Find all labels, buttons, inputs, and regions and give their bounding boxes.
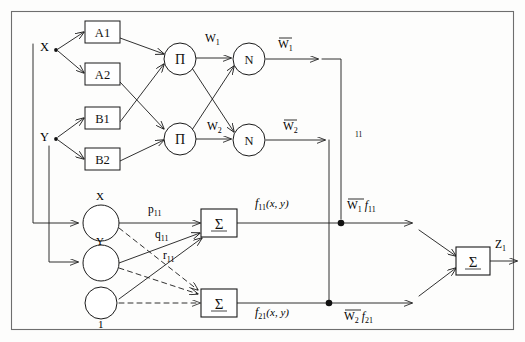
membership-label-a2: A2 [95, 68, 110, 82]
rule-weight-label-1: W1 [205, 32, 220, 47]
rule-weight-2-sub: 2 [218, 126, 222, 135]
wo2-weight-sub: 2 [355, 316, 359, 325]
norm-node-n-1-label: N [244, 53, 253, 67]
consequent-param-label-r: r11 [163, 249, 175, 264]
wo1-func-sub: 11 [368, 205, 376, 214]
consequent-circle-one[interactable] [85, 287, 117, 319]
edge-y-to-b1 [58, 118, 84, 137]
param-q-sub: 11 [161, 234, 169, 243]
weighted-output-label-1: W1f11 [347, 199, 376, 214]
sum-box-2-label: Σ [215, 296, 224, 312]
weighted-output-label-2: W2f21 [344, 310, 373, 325]
wo1-weight-sub: 1 [358, 205, 362, 214]
membership-label-b1: B1 [95, 112, 110, 126]
rule-weight-1-base: W [205, 32, 216, 44]
membership-label-a1: A1 [95, 26, 110, 40]
rule-node-pi-1-label: Π [175, 52, 185, 67]
wo1-weight: W [347, 199, 358, 211]
edge-b2-to-pi2 [120, 140, 164, 161]
sum-box-1-label: Σ [215, 216, 224, 232]
anfis-diagram-canvas: A1 A2 B1 B2 Π Π N N Σ Σ Σ [0, 0, 525, 342]
route-wbar1-down [322, 59, 341, 219]
edge-a2-to-pi2 [120, 82, 164, 129]
output-label-z1: Z1 [495, 238, 506, 253]
input-label-x: X [40, 40, 49, 55]
edge-to-final-sum-lower [419, 268, 456, 296]
junction-dot-wbar2 [326, 300, 333, 307]
f21-args: (x, y) [266, 306, 289, 318]
branch-label: 11 [355, 130, 362, 139]
input-dot-x [54, 48, 58, 52]
input-dot-y [54, 137, 58, 141]
consequent-input-label-one: 1 [98, 318, 104, 330]
normalized-weight-label-2: W2 [283, 120, 298, 135]
consequent-input-label-y: Y [96, 235, 104, 247]
norm-node-n-2-label: N [244, 134, 253, 148]
norm-weight-1-base: W [278, 38, 289, 50]
normalized-weight-label-1: W1 [278, 38, 293, 53]
consequent-param-label-q: q11 [155, 228, 168, 243]
rule-weight-label-2: W2 [207, 120, 222, 135]
f11-args: (x, y) [266, 197, 289, 209]
edge-y-to-b2 [58, 140, 84, 159]
param-p-sub: 11 [154, 209, 162, 218]
consequent-param-label-p: p11 [148, 203, 161, 218]
function-label-f21: f21(x, y) [255, 305, 289, 321]
wo2-weight: W [344, 310, 355, 322]
edge-x-to-a1 [58, 32, 84, 49]
param-r-sub: 11 [167, 255, 175, 264]
diagram-svg: A1 A2 B1 B2 Π Π N N Σ Σ Σ [0, 0, 525, 342]
route-y-down-to-circle [49, 146, 78, 262]
rule-node-pi-2-label: Π [175, 132, 185, 147]
norm-weight-2-base: W [283, 120, 294, 132]
junction-dot-wbar1 [338, 220, 345, 227]
output-base: Z [495, 238, 502, 250]
norm-weight-2-sub: 2 [294, 126, 298, 135]
output-sub: 1 [502, 244, 506, 253]
edge-x-to-a2 [58, 51, 84, 73]
norm-weight-1-sub: 1 [289, 44, 293, 53]
wo2-func-sub: 21 [365, 316, 373, 325]
consequent-circle-y[interactable] [83, 245, 119, 281]
rule-weight-1-sub: 1 [216, 38, 220, 47]
input-label-y: Y [40, 130, 49, 145]
sum-box-final-label: Σ [469, 254, 478, 270]
consequent-input-label-x: X [96, 190, 104, 202]
rule-weight-2-base: W [207, 120, 218, 132]
edge-b1-to-pi1 [120, 64, 164, 122]
edge-a1-to-pi1 [120, 38, 164, 54]
function-label-f11: f11(x, y) [255, 196, 289, 212]
membership-label-b2: B2 [95, 153, 110, 167]
edge-to-final-sum-upper [419, 230, 456, 256]
f11-sub: 11 [258, 203, 266, 212]
